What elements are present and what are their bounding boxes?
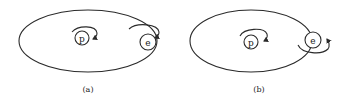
panel-a: p e (a)	[19, 10, 159, 94]
proton-label-a: p	[79, 34, 85, 44]
electron-label-b: e	[310, 36, 315, 46]
proton-label-b: p	[248, 38, 254, 48]
caption-a: (a)	[82, 85, 93, 94]
panel-b: p e (b)	[190, 10, 329, 94]
electron-label-a: e	[145, 38, 150, 48]
caption-b: (b)	[253, 85, 264, 94]
hydrogen-spin-diagram: p e (a) p e (b)	[0, 0, 348, 108]
